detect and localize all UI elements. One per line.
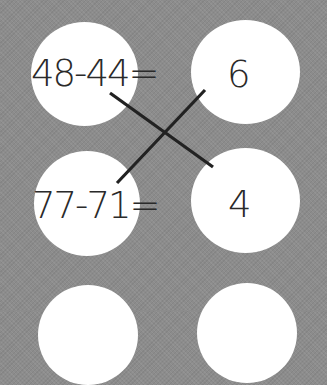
problem-1-expression: 48-44= (31, 55, 158, 92)
match-line-77-71-to-6 (117, 90, 205, 183)
answer-circle-3[interactable] (197, 283, 297, 383)
answer-1-value: 6 (227, 56, 251, 93)
problem-2-expression: 77-71= (32, 187, 159, 224)
problem-circle-3[interactable] (38, 285, 138, 385)
answer-2-value: 4 (228, 186, 252, 223)
